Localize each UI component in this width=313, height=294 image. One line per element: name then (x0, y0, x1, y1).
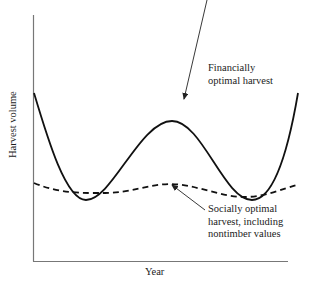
financial-annotation-line2: optimal harvest (208, 75, 273, 88)
chart-canvas (0, 0, 313, 294)
financial-annotation-line1: Financially (208, 62, 273, 75)
financial-annotation-arrow (184, 0, 207, 99)
social-annotation-line3: nontimber values (208, 228, 283, 241)
y-axis-label: Harvest volume (7, 91, 18, 158)
socially-optimal-curve (34, 183, 297, 197)
social-annotation-line1: Socially optimal (208, 203, 283, 216)
social-annotation-line2: harvest, including (208, 216, 283, 229)
social-annotation: Socially optimal harvest, including nont… (208, 203, 283, 241)
social-annotation-arrow (172, 185, 205, 210)
financial-annotation: Financially optimal harvest (208, 62, 273, 87)
x-axis-label: Year (145, 266, 164, 279)
